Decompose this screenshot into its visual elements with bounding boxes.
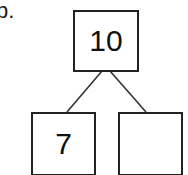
whole-value: 10 [89, 24, 122, 58]
connector-right [110, 71, 146, 112]
part-left-value: 7 [55, 127, 72, 161]
part-box-right[interactable] [118, 112, 183, 175]
part-box-left: 7 [31, 112, 96, 175]
connector-left [67, 71, 102, 112]
whole-box: 10 [73, 10, 139, 72]
